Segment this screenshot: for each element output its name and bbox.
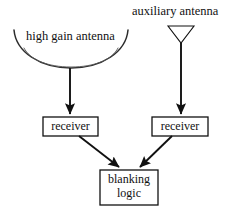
receiver-right-label: receiver	[152, 119, 208, 133]
blanking-logic-label-line2: logic	[100, 186, 158, 200]
edge-receiver-left-to-blanking	[79, 136, 119, 167]
high-gain-antenna-label: high gain antenna	[26, 30, 115, 43]
diagram-canvas: high gain antenna auxiliary antenna rece…	[0, 0, 240, 216]
blanking-logic-label: blanking logic	[100, 172, 158, 200]
auxiliary-antenna-horn	[168, 26, 194, 43]
edge-receiver-right-to-blanking	[140, 136, 172, 167]
blanking-logic-label-line1: blanking	[100, 172, 158, 186]
auxiliary-antenna-label: auxiliary antenna	[132, 5, 218, 18]
receiver-left-label: receiver	[43, 119, 98, 133]
